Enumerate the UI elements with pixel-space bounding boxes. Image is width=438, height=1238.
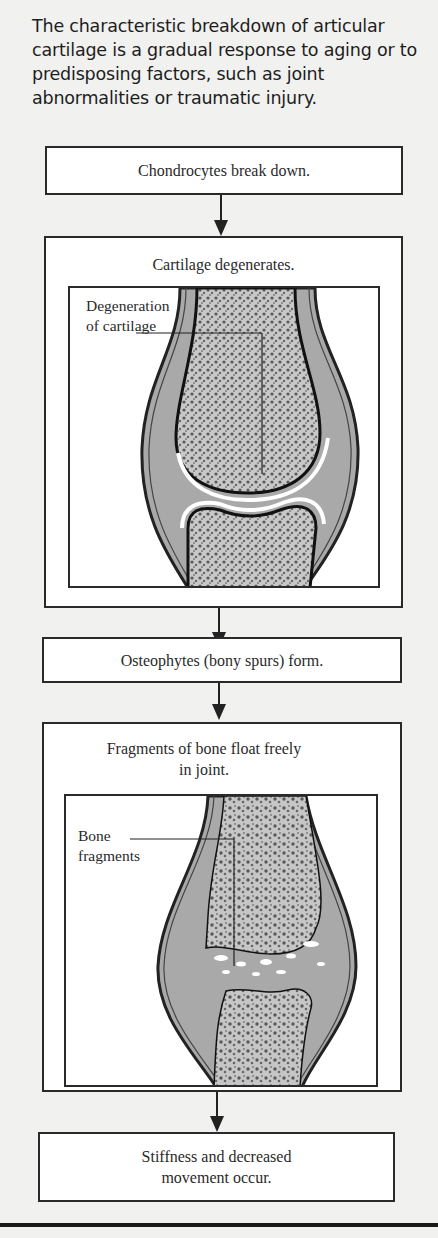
joint-illustration-degeneration: Degeneration of cartilage [68, 286, 380, 588]
callout-line-1: Degeneration [86, 296, 170, 316]
step-bone-fragments-line-2: in joint. [44, 759, 364, 780]
bottom-rule [0, 1223, 438, 1227]
step-bone-fragments-box: Fragments of bone float freely in joint. [42, 722, 402, 1092]
step-stiffness-line-2: movement occur. [40, 1167, 393, 1188]
step-cartilage-degenerates-label: Cartilage degenerates. [46, 254, 401, 275]
intro-paragraph: The characteristic breakdown of articula… [32, 14, 432, 110]
callout-line-1: Bone [78, 826, 140, 846]
step-stiffness-box: Stiffness and decreased movement occur. [38, 1132, 395, 1202]
callout-line-2: of cartilage [86, 316, 170, 336]
arrowhead-icon [210, 1116, 224, 1132]
arrowhead-icon [214, 220, 228, 236]
step-osteophytes-label: Osteophytes (bony spurs) form. [44, 650, 400, 671]
step-chondrocytes-label: Chondrocytes break down. [47, 160, 401, 181]
step-osteophytes-box: Osteophytes (bony spurs) form. [42, 637, 402, 683]
callout-bone-fragments: Bone fragments [78, 826, 140, 866]
flow-arrow-1 [220, 195, 222, 223]
callout-line-2: fragments [78, 846, 140, 866]
step-chondrocytes-box: Chondrocytes break down. [45, 146, 403, 195]
step-stiffness-label: Stiffness and decreased movement occur. [40, 1146, 393, 1188]
callout-degeneration-of-cartilage: Degeneration of cartilage [86, 296, 170, 336]
joint-illustration-fragments: Bone fragments [64, 794, 378, 1087]
arrowhead-icon [212, 704, 226, 720]
step-bone-fragments-label: Fragments of bone float freely in joint. [44, 738, 400, 780]
step-cartilage-degenerates-box: Cartilage degenerates. [44, 236, 403, 608]
step-bone-fragments-line-1: Fragments of bone float freely [44, 738, 364, 759]
step-stiffness-line-1: Stiffness and decreased [40, 1146, 393, 1167]
